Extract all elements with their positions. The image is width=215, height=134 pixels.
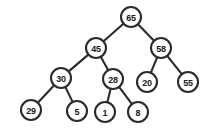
node-label-29: 29 bbox=[26, 106, 36, 116]
nodes-group: 6545583028205529518 bbox=[21, 7, 198, 122]
tree-edge-30-29 bbox=[37, 85, 55, 104]
tree-node-8[interactable]: 8 bbox=[128, 102, 148, 122]
node-label-20: 20 bbox=[142, 78, 152, 88]
tree-node-45[interactable]: 45 bbox=[86, 38, 106, 58]
tree-node-29[interactable]: 29 bbox=[21, 100, 41, 120]
node-label-65: 65 bbox=[126, 13, 136, 23]
tree-edge-58-55 bbox=[167, 55, 183, 75]
node-label-1: 1 bbox=[103, 108, 108, 118]
tree-node-58[interactable]: 58 bbox=[151, 38, 171, 58]
tree-edge-45-28 bbox=[100, 56, 108, 71]
tree-node-20[interactable]: 20 bbox=[137, 72, 157, 92]
node-label-30: 30 bbox=[56, 74, 66, 84]
node-label-5: 5 bbox=[75, 107, 80, 117]
tree-node-30[interactable]: 30 bbox=[51, 68, 71, 88]
edges-group bbox=[37, 23, 182, 105]
node-label-45: 45 bbox=[91, 44, 101, 54]
tree-edge-30-5 bbox=[65, 86, 73, 103]
node-label-8: 8 bbox=[136, 108, 141, 118]
node-label-58: 58 bbox=[156, 44, 166, 54]
tree-edge-28-1 bbox=[107, 88, 111, 104]
tree-node-5[interactable]: 5 bbox=[67, 101, 87, 121]
tree-node-55[interactable]: 55 bbox=[178, 72, 198, 92]
binary-tree-diagram: 6545583028205529518 bbox=[0, 0, 215, 134]
tree-edge-65-45 bbox=[103, 23, 125, 42]
tree-node-28[interactable]: 28 bbox=[103, 69, 123, 89]
tree-edge-58-20 bbox=[150, 56, 157, 73]
tree-edge-28-8 bbox=[118, 86, 132, 105]
tree-node-65[interactable]: 65 bbox=[121, 7, 141, 27]
tree-node-1[interactable]: 1 bbox=[95, 102, 115, 122]
tree-edge-45-30 bbox=[68, 54, 89, 72]
tree-edge-65-58 bbox=[137, 23, 154, 41]
node-label-28: 28 bbox=[108, 75, 118, 85]
tree-canvas: 6545583028205529518 bbox=[0, 0, 215, 134]
node-label-55: 55 bbox=[183, 78, 193, 88]
